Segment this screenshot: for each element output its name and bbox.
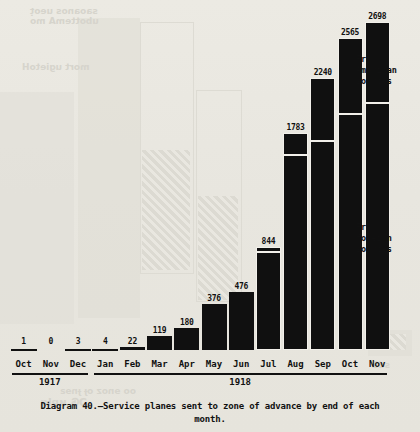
annotation-american-line1: From bbox=[356, 54, 397, 65]
bar-1918-Feb[interactable] bbox=[120, 347, 145, 350]
bar-segment-american-1918-Sep bbox=[310, 78, 335, 141]
bar-segment-foreign-1918-Feb bbox=[120, 347, 145, 350]
annotation-foreign-line1: From bbox=[356, 222, 392, 233]
bar-1918-Apr[interactable] bbox=[174, 328, 199, 350]
annotation-foreign-sources: From foreign sources bbox=[356, 222, 392, 255]
annotation-american-line3: sources bbox=[356, 76, 397, 87]
bar-value-total-1918-Jul: 844 bbox=[250, 237, 286, 246]
bar-value-total-1918-Nov: 2698 bbox=[359, 12, 395, 21]
axis-month-label-1918-Nov: Nov bbox=[361, 359, 393, 369]
annotation-foreign-line3: sources bbox=[356, 244, 392, 255]
bar-1918-May[interactable] bbox=[202, 304, 227, 350]
bar-tick-1917-Nov bbox=[38, 349, 64, 351]
axis-year-rule-1918 bbox=[94, 373, 387, 375]
bar-tick-1917-Oct bbox=[11, 349, 37, 351]
bar-segment-foreign-1918-Jul bbox=[256, 252, 281, 350]
bar-segment-foreign-1918-Aug bbox=[283, 155, 308, 350]
axis-year-label-1917: 1917 bbox=[12, 377, 88, 387]
caption-line-1: Diagram 40.—Service planes sent to zone … bbox=[8, 400, 412, 413]
axis-year-rule-1917 bbox=[12, 373, 88, 375]
bar-value-total-1918-Apr: 180 bbox=[169, 318, 205, 327]
caption-line-2: month. bbox=[8, 413, 412, 426]
bar-1918-Jun[interactable] bbox=[229, 292, 254, 350]
bar-segment-foreign-1918-Jun bbox=[229, 292, 254, 350]
bar-segment-foreign-1918-May bbox=[202, 304, 227, 350]
annotation-american-sources: From American sources bbox=[356, 54, 397, 87]
bar-segment-foreign-1918-Sep bbox=[310, 141, 335, 350]
annotation-foreign-line2: foreign bbox=[356, 233, 392, 244]
bar-tick-1918-Jan bbox=[92, 349, 118, 351]
bar-value-total-1918-Jun: 476 bbox=[223, 282, 259, 291]
bar-value-total-1918-Oct: 2565 bbox=[332, 28, 368, 37]
figure-caption: Diagram 40.—Service planes sent to zone … bbox=[0, 400, 420, 426]
bar-tick-1917-Dec bbox=[65, 349, 91, 351]
bar-value-total-1918-Aug: 1783 bbox=[278, 123, 314, 132]
bar-1918-Aug[interactable] bbox=[283, 133, 308, 350]
bar-1918-Jul[interactable] bbox=[256, 247, 281, 350]
annotation-american-line2: American bbox=[356, 65, 397, 76]
axis-year-label-1918: 1918 bbox=[94, 377, 387, 387]
bar-segment-foreign-1918-Apr bbox=[174, 328, 199, 350]
